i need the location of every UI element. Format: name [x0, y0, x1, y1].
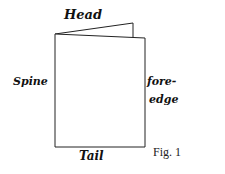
- front-page-outline: [55, 34, 145, 147]
- spine-label: Spine: [13, 76, 48, 87]
- fore-edge-label-line1: fore-: [147, 76, 176, 87]
- tail-label: Tail: [79, 150, 104, 162]
- fore-edge-label-line2: edge: [149, 94, 178, 105]
- figure-caption: Fig. 1: [153, 145, 181, 160]
- head-label: Head: [64, 8, 102, 21]
